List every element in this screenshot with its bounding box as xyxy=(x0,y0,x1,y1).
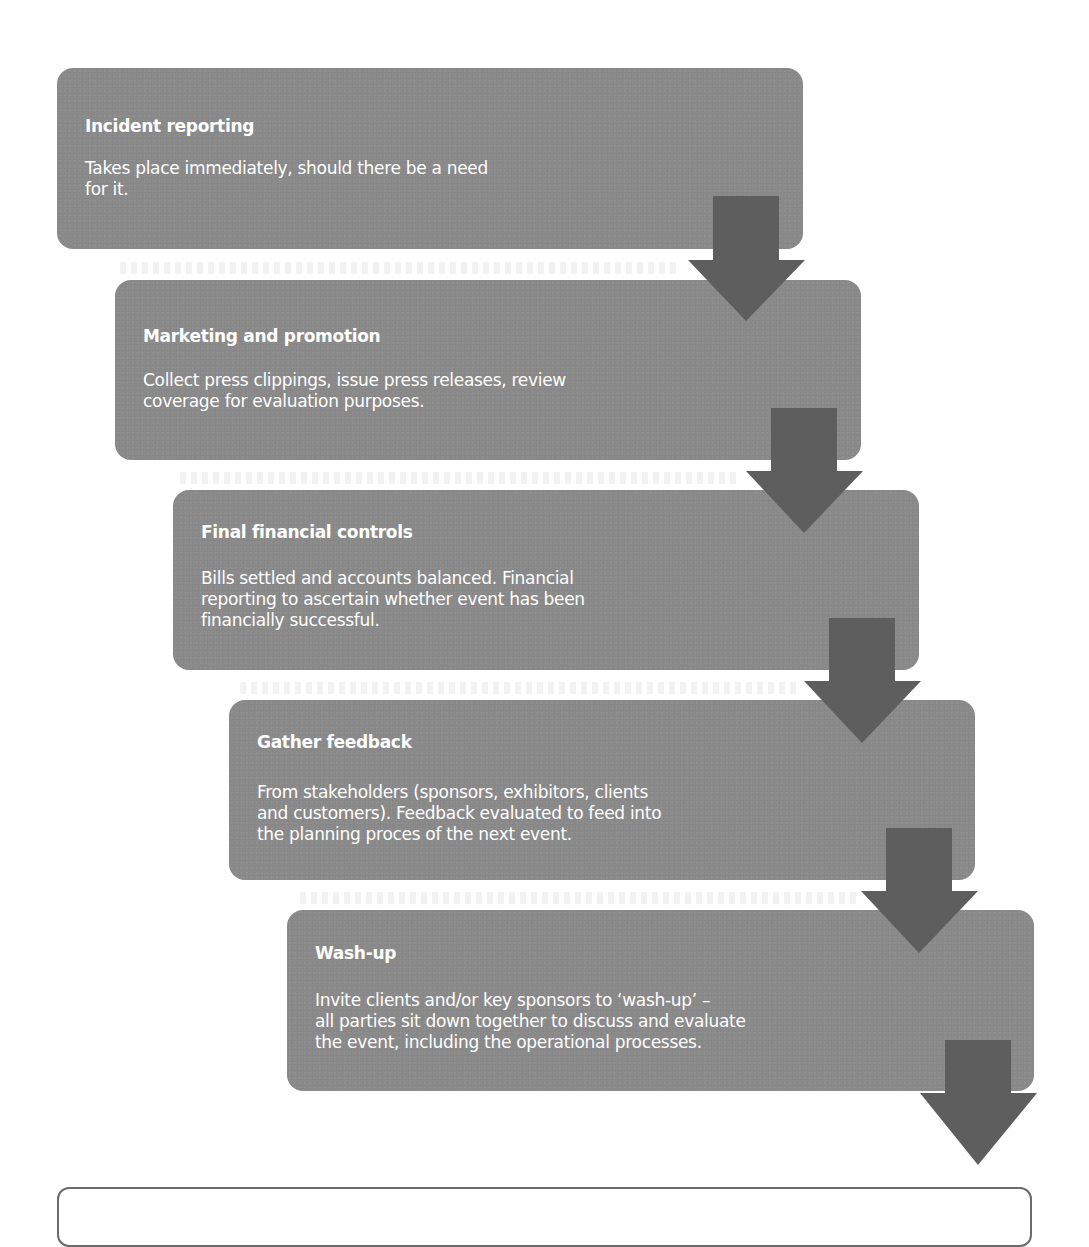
down-arrow-icon xyxy=(920,1040,1037,1165)
bleed-through-band xyxy=(240,682,800,694)
down-arrow-icon xyxy=(804,618,921,743)
step-description: Invite clients and/or key sponsors to ‘w… xyxy=(315,990,746,1053)
step-title: Wash-up xyxy=(315,943,396,963)
step-title: Marketing and promotion xyxy=(143,326,380,346)
step-title: Incident reporting xyxy=(85,116,254,136)
bleed-through-band xyxy=(180,472,740,484)
down-arrow-icon xyxy=(688,196,805,321)
step-description: Collect press clippings, issue press rel… xyxy=(143,370,566,412)
step-title: Gather feedback xyxy=(257,732,412,752)
down-arrow-icon xyxy=(861,828,978,953)
step-title: Final financial controls xyxy=(201,522,413,542)
bleed-through-band xyxy=(120,262,680,274)
step-description: From stakeholders (sponsors, exhibitors,… xyxy=(257,782,661,845)
step-description: Takes place immediately, should there be… xyxy=(85,158,488,200)
step-description: Bills settled and accounts balanced. Fin… xyxy=(201,568,585,631)
figure-caption-box xyxy=(57,1187,1032,1247)
bleed-through-band xyxy=(300,892,860,904)
down-arrow-icon xyxy=(746,408,863,533)
